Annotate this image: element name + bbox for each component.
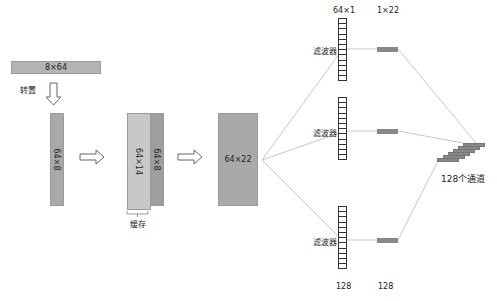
- filter-label-1: 滤波器: [313, 45, 337, 56]
- filter-2: [338, 98, 347, 160]
- output-bar-2: [377, 129, 398, 134]
- new-matrix-64x8: 64×8: [150, 113, 164, 206]
- filter-label-2: 滤波器: [313, 127, 337, 138]
- transposed-dim-label: 64×8: [53, 149, 62, 171]
- filter-dim-label: 64×1: [333, 6, 355, 15]
- cache-brace: [127, 211, 148, 217]
- new-dim-label: 64×8: [153, 149, 162, 171]
- output-count-label: 128: [378, 282, 393, 291]
- cache-matrix-64x14: 64×14: [127, 113, 151, 210]
- cache-dim-label: 64×14: [135, 148, 144, 175]
- input-dim-label: 8×64: [45, 63, 67, 72]
- line-to-filter-1: [262, 50, 342, 160]
- line-to-stack-2: [398, 131, 468, 144]
- output-dim-label: 1×22: [377, 6, 399, 15]
- filter-3: [338, 207, 347, 269]
- transposed-matrix-64x8: 64×8: [50, 113, 64, 206]
- filter-count-label: 128: [336, 282, 351, 291]
- combined-matrix-64x22: 64×22: [218, 113, 258, 206]
- transpose-label: 转置: [20, 84, 36, 95]
- combined-dim-label: 64×22: [224, 155, 251, 164]
- filter-1: [338, 19, 347, 81]
- output-bar-3: [377, 238, 398, 243]
- cache-label: 缓存: [130, 218, 146, 229]
- line-to-filter-3: [262, 160, 342, 240]
- filter-label-3: 滤波器: [313, 236, 337, 247]
- input-matrix-8x64: 8×64: [11, 61, 101, 74]
- right-arrow-icon: [178, 150, 202, 164]
- line-to-stack-1: [398, 49, 476, 143]
- right-arrow-icon: [80, 150, 104, 164]
- down-arrow-icon: [46, 83, 61, 105]
- line-to-stack-3: [398, 161, 438, 240]
- output-bar-1: [377, 47, 398, 52]
- channels-label: 128个通道: [441, 172, 485, 185]
